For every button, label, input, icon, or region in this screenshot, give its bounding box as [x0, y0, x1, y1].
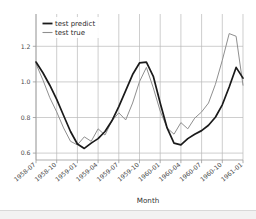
chart-figure: 1.2 1.0 0.8 0.6 1958-07 1958-10 1959-01 … — [0, 0, 256, 219]
x-tick-label: 1961-01 — [219, 161, 243, 183]
x-tick-label: 1960-01 — [137, 161, 161, 183]
x-tick-label: 1960-04 — [157, 161, 181, 183]
legend-label-test-predict: test predict — [55, 20, 95, 28]
x-axis-title: Month — [137, 196, 160, 205]
x-tick-label: 1958-07 — [12, 161, 36, 183]
x-tickmarks — [36, 160, 243, 163]
x-tick-label: 1959-07 — [95, 161, 119, 183]
x-tick-label: 1959-01 — [54, 161, 78, 183]
y-tick-labels: 1.2 1.0 0.8 0.6 — [21, 43, 31, 157]
line-chart-canvas: 1.2 1.0 0.8 0.6 1958-07 1958-10 1959-01 … — [0, 0, 256, 219]
y-tick-label: 1.2 — [21, 43, 31, 50]
bottom-edge-band — [0, 210, 256, 219]
x-tick-labels: 1958-07 1958-10 1959-01 1959-04 1959-07 … — [12, 161, 243, 183]
y-tick-label: 0.6 — [21, 149, 31, 156]
chart-legend: test predict test true — [40, 17, 103, 38]
x-tick-label: 1959-04 — [74, 161, 98, 183]
y-tick-label: 0.8 — [21, 114, 31, 121]
x-tick-label: 1960-07 — [178, 161, 202, 183]
legend-label-test-true: test true — [55, 29, 85, 37]
x-tick-label: 1960-10 — [199, 161, 223, 183]
x-tick-label: 1959-10 — [116, 161, 140, 183]
x-tick-label: 1958-10 — [33, 161, 57, 183]
y-tick-label: 1.0 — [21, 78, 31, 85]
